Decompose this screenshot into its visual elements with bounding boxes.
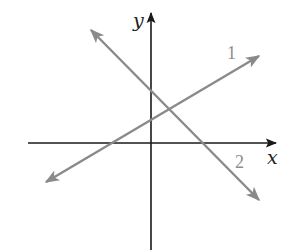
- line-2-label: 2: [235, 152, 244, 172]
- line-1: [46, 56, 259, 182]
- line-1-label: 1: [227, 43, 236, 63]
- x-axis-label: x: [267, 146, 278, 168]
- coordinate-diagram: y x 1 2: [0, 0, 302, 250]
- y-axis-label: y: [132, 9, 144, 31]
